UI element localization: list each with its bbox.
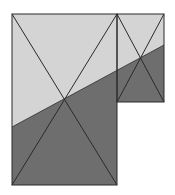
l-shape-diagram — [0, 0, 175, 195]
